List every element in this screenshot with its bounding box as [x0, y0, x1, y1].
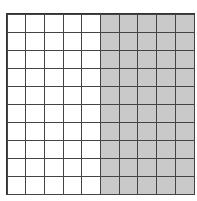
shaded-square	[100, 86, 120, 105]
shaded-square	[137, 104, 157, 123]
unshaded-square	[44, 140, 64, 159]
shaded-square	[119, 14, 139, 33]
unshaded-square	[63, 14, 83, 33]
unshaded-square	[63, 32, 83, 51]
shaded-square	[156, 122, 176, 141]
unshaded-square	[63, 122, 83, 141]
unshaded-square	[25, 176, 45, 195]
shaded-square	[119, 158, 139, 177]
unshaded-square	[7, 68, 27, 87]
unshaded-square	[7, 176, 27, 195]
unshaded-square	[7, 104, 27, 123]
unshaded-square	[81, 104, 101, 123]
unshaded-square	[63, 68, 83, 87]
shaded-square	[175, 122, 195, 141]
shaded-square	[175, 68, 195, 87]
unshaded-square	[25, 122, 45, 141]
unshaded-square	[25, 140, 45, 159]
shaded-square	[175, 104, 195, 123]
unshaded-square	[63, 50, 83, 69]
unshaded-square	[25, 68, 45, 87]
shaded-square	[119, 50, 139, 69]
shaded-square	[100, 158, 120, 177]
unshaded-square	[7, 122, 27, 141]
unshaded-square	[7, 14, 27, 33]
unshaded-square	[81, 68, 101, 87]
shaded-square	[137, 50, 157, 69]
unshaded-square	[63, 176, 83, 195]
shaded-square	[100, 68, 120, 87]
unshaded-square	[81, 50, 101, 69]
shaded-square	[156, 104, 176, 123]
unshaded-square	[81, 140, 101, 159]
shaded-square	[100, 122, 120, 141]
shaded-square	[119, 122, 139, 141]
unshaded-square	[44, 104, 64, 123]
shaded-square	[175, 158, 195, 177]
shaded-square	[100, 176, 120, 195]
shaded-square	[156, 176, 176, 195]
unshaded-square	[63, 86, 83, 105]
unshaded-square	[25, 50, 45, 69]
unshaded-square	[7, 86, 27, 105]
shaded-square	[175, 14, 195, 33]
shaded-square	[156, 140, 176, 159]
shaded-square	[137, 140, 157, 159]
shaded-square	[100, 50, 120, 69]
unshaded-square	[25, 158, 45, 177]
unshaded-square	[44, 68, 64, 87]
shaded-square	[119, 86, 139, 105]
unshaded-square	[44, 14, 64, 33]
shaded-square	[137, 176, 157, 195]
unshaded-square	[44, 50, 64, 69]
shaded-square	[100, 140, 120, 159]
unshaded-square	[44, 176, 64, 195]
unshaded-square	[25, 32, 45, 51]
shaded-square	[119, 32, 139, 51]
unshaded-square	[81, 122, 101, 141]
shaded-square	[100, 104, 120, 123]
unshaded-square	[81, 86, 101, 105]
shaded-square	[137, 86, 157, 105]
unshaded-square	[25, 104, 45, 123]
unshaded-square	[7, 32, 27, 51]
shaded-square	[156, 50, 176, 69]
shaded-square	[156, 86, 176, 105]
shaded-square	[119, 68, 139, 87]
shaded-square	[156, 14, 176, 33]
unshaded-square	[25, 14, 45, 33]
unshaded-square	[44, 122, 64, 141]
unshaded-square	[25, 86, 45, 105]
shaded-square	[100, 14, 120, 33]
unshaded-square	[81, 176, 101, 195]
shaded-square	[119, 140, 139, 159]
shaded-square	[175, 176, 195, 195]
shaded-square	[175, 140, 195, 159]
unshaded-square	[44, 32, 64, 51]
unshaded-square	[81, 158, 101, 177]
unshaded-square	[81, 14, 101, 33]
shaded-square	[175, 32, 195, 51]
unshaded-square	[44, 86, 64, 105]
unshaded-square	[63, 104, 83, 123]
shaded-square	[175, 86, 195, 105]
unshaded-square	[81, 32, 101, 51]
shaded-square	[137, 68, 157, 87]
shaded-square	[175, 50, 195, 69]
unshaded-square	[7, 50, 27, 69]
unshaded-square	[44, 158, 64, 177]
shaded-square	[119, 176, 139, 195]
shaded-square	[100, 32, 120, 51]
shaded-square	[137, 158, 157, 177]
shaded-square	[156, 68, 176, 87]
shaded-square	[137, 14, 157, 33]
unshaded-square	[7, 140, 27, 159]
shaded-square	[119, 104, 139, 123]
hundred-grid	[6, 13, 195, 195]
shaded-square	[156, 32, 176, 51]
shaded-square	[137, 32, 157, 51]
shaded-square	[137, 122, 157, 141]
unshaded-square	[63, 140, 83, 159]
unshaded-square	[63, 158, 83, 177]
shaded-square	[156, 158, 176, 177]
